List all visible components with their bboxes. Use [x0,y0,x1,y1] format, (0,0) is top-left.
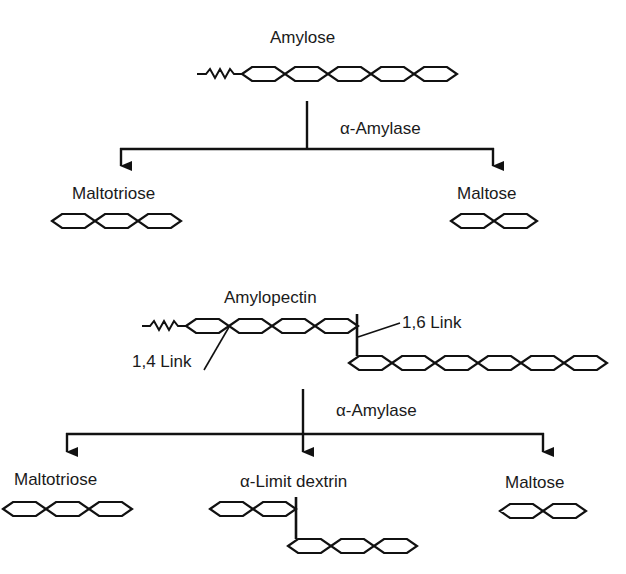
reducing-end-zigzag-icon [142,321,186,330]
maltotriose-label-top: Maltotriose [72,185,155,202]
amylose-chain [197,67,457,81]
maltotriose-label-bottom: Maltotriose [14,471,97,488]
limit-dextrin-chain [210,497,417,553]
limit-dextrin-label: α-Limit dextrin [240,473,347,490]
link-14-label: 1,4 Link [132,353,192,370]
maltose-chain-bottom [500,504,586,518]
amylopectin-branch-chain [349,356,607,370]
amylopectin-main-chain [142,319,358,333]
enzyme-label-top: α-Amylase [340,120,421,137]
enzyme-label-bottom: α-Amylase [336,402,417,419]
maltotriose-chain-top [52,214,181,228]
maltotriose-chain-bottom [3,502,132,516]
maltose-label-top: Maltose [457,185,517,202]
branch-point-1-6 [357,314,400,356]
reducing-end-zigzag-icon [197,69,242,78]
maltose-label-bottom: Maltose [505,474,565,491]
maltose-chain-top [451,214,537,228]
amylopectin-label: Amylopectin [224,289,317,306]
link-16-label: 1,6 Link [402,314,462,331]
amylase-reaction-arrows-bottom [66,389,544,452]
amylase-reaction-arrows-top [120,101,494,166]
amylose-label: Amylose [270,29,335,46]
